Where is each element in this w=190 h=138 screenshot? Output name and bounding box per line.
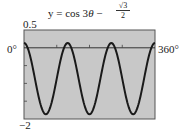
plot-area xyxy=(0,0,190,138)
plot-background xyxy=(24,30,155,119)
